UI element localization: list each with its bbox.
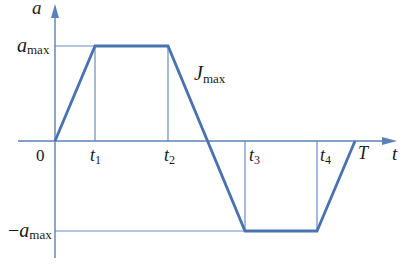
y-axis-label: a — [32, 0, 42, 18]
jerk-max-label: Jmax — [194, 62, 226, 86]
y-axis-arrow-icon — [51, 4, 59, 18]
t1-label: t1 — [90, 145, 101, 167]
a-max-label: amax — [17, 34, 50, 57]
end-time-label: T — [358, 143, 370, 163]
t4-label: t4 — [320, 145, 331, 167]
t3-label: t3 — [249, 145, 260, 167]
x-axis-label: t — [392, 143, 398, 164]
neg-a-max-label: −amax — [8, 219, 52, 242]
t2-label: t2 — [164, 145, 175, 167]
origin-label: 0 — [36, 146, 45, 165]
acceleration-profile-diagram: a t 0 amax −amax t1 t2 t3 t4 T Jmax — [0, 0, 408, 270]
